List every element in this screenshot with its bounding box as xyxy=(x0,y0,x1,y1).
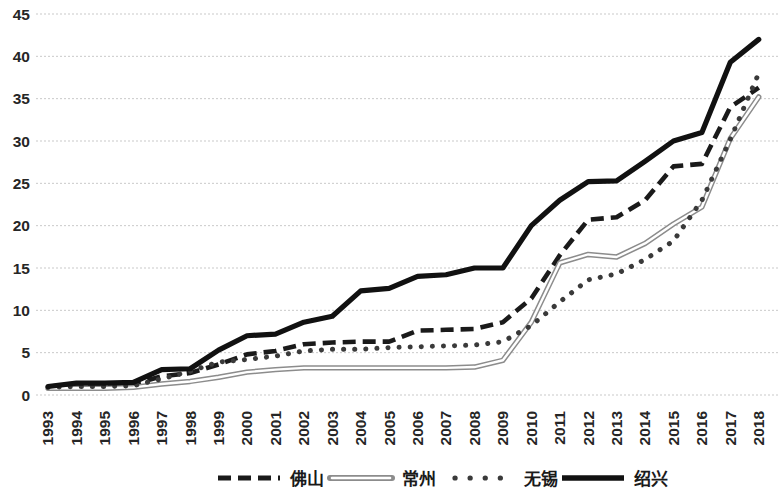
y-tick-label: 45 xyxy=(13,6,31,23)
x-tick-label: 2005 xyxy=(381,411,398,446)
series-line-dotted xyxy=(48,73,759,387)
x-tick-label: 2000 xyxy=(238,411,255,445)
x-tick-label: 2006 xyxy=(409,411,426,446)
x-tick-label: 2014 xyxy=(636,411,653,446)
x-tick-label: 2013 xyxy=(608,411,625,446)
x-axis-tick-labels: 1993199419951996199719981999200020012002… xyxy=(39,411,767,446)
x-tick-label: 2002 xyxy=(295,411,312,445)
x-tick-label: 2012 xyxy=(580,411,597,445)
x-tick-label: 2018 xyxy=(750,411,767,446)
x-tick-label: 2003 xyxy=(324,411,341,446)
x-tick-label: 2010 xyxy=(523,411,540,445)
line-chart: 051015202530354045 199319941995199619971… xyxy=(0,0,780,500)
x-tick-label: 2007 xyxy=(437,411,454,445)
y-tick-label: 0 xyxy=(21,387,30,404)
x-tick-label: 1994 xyxy=(68,411,85,446)
x-tick-label: 2001 xyxy=(267,411,284,446)
y-tick-label: 35 xyxy=(13,90,31,107)
x-tick-label: 2008 xyxy=(466,411,483,446)
y-tick-label: 15 xyxy=(13,260,31,277)
x-tick-label: 2004 xyxy=(352,411,369,446)
y-axis-tick-labels: 051015202530354045 xyxy=(13,6,31,404)
y-tick-label: 40 xyxy=(13,48,30,65)
x-tick-label: 1996 xyxy=(125,411,142,446)
series-2 xyxy=(48,73,759,387)
chart-legend: 佛山常州无锡绍兴 xyxy=(218,469,668,489)
legend-item-无锡[interactable]: 无锡 xyxy=(455,469,558,489)
x-tick-label: 2016 xyxy=(693,411,710,446)
y-tick-label: 10 xyxy=(13,302,30,319)
x-tick-label: 1995 xyxy=(96,411,113,446)
x-tick-label: 1999 xyxy=(210,411,227,446)
x-tick-label: 2011 xyxy=(551,411,568,445)
legend-label: 佛山 xyxy=(289,469,324,489)
y-tick-label: 30 xyxy=(13,133,30,150)
chart-container: 051015202530354045 199319941995199619971… xyxy=(0,0,780,500)
legend-label: 绍兴 xyxy=(634,469,668,489)
legend-item-绍兴[interactable]: 绍兴 xyxy=(562,469,668,489)
x-tick-label: 2009 xyxy=(494,411,511,446)
x-tick-label: 1997 xyxy=(153,411,170,445)
y-tick-label: 25 xyxy=(13,175,31,192)
y-tick-label: 20 xyxy=(13,217,30,234)
gridlines-group xyxy=(36,14,779,395)
legend-item-佛山[interactable]: 佛山 xyxy=(218,469,324,489)
legend-item-常州[interactable]: 常州 xyxy=(330,469,436,489)
data-series-group xyxy=(48,39,759,388)
y-tick-label: 5 xyxy=(21,344,30,361)
legend-label: 无锡 xyxy=(523,469,558,489)
x-tick-label: 2015 xyxy=(665,411,682,446)
legend-label: 常州 xyxy=(402,469,436,489)
x-tick-label: 1993 xyxy=(39,411,56,446)
x-tick-label: 1998 xyxy=(182,411,199,446)
x-tick-label: 2017 xyxy=(722,411,739,445)
